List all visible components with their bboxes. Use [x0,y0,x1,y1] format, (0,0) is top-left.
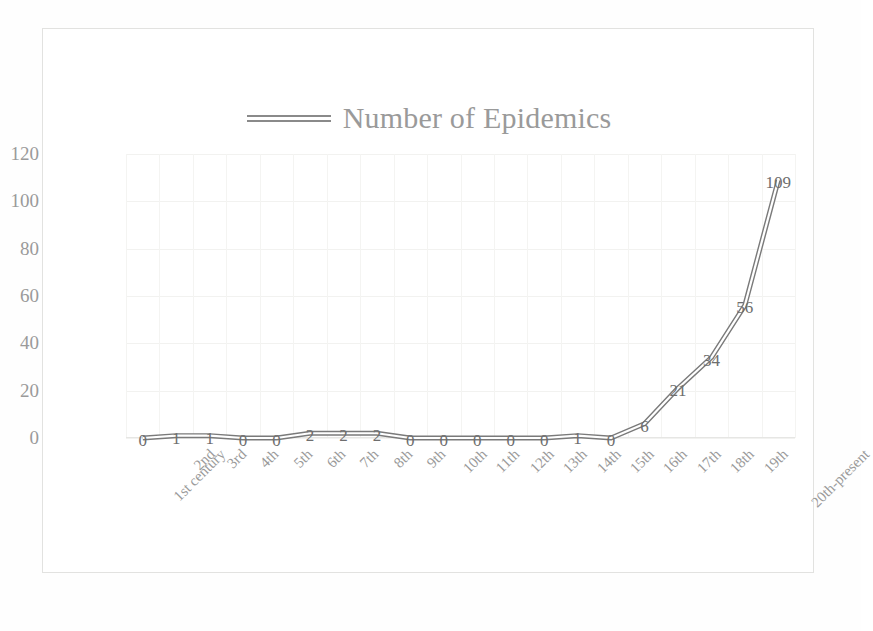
x-axis-tick-text: 20th-present [808,446,873,511]
x-axis-tick-text: 16th [660,446,691,477]
chart-frame: Number of Epidemics 020406080100120 0110… [42,28,814,573]
y-axis-tick-label: 0 [0,427,39,449]
x-axis-tick-label: 18th [727,446,758,477]
plot-area: 020406080100120 011002220000010621345610… [126,154,795,438]
x-axis-tick-label: 13th [560,446,591,477]
x-axis-tick-label: 11th [493,446,523,476]
x-axis-tick-label: 19th [761,446,792,477]
x-axis-tick-label: 17th [694,446,725,477]
data-point-label: 0 [272,431,281,451]
y-axis-tick-label: 120 [0,143,39,165]
x-axis-tick-text: 10th [460,446,491,477]
data-point-label: 109 [766,173,792,193]
x-axis-tick-text: 18th [727,446,758,477]
x-axis-tick-label: 7th [357,446,383,472]
y-axis-tick-label: 20 [0,380,39,402]
x-axis-tick-label: 12th [526,446,557,477]
y-axis-tick-label: 60 [0,285,39,307]
legend-label: Number of Epidemics [343,101,612,135]
data-point-label: 0 [440,431,449,451]
gridline [795,154,796,438]
data-point-label: 6 [640,417,649,437]
data-point-label: 2 [373,426,382,446]
legend-line-swatch-icon [247,114,331,123]
x-axis-tick-text: 19th [761,446,792,477]
data-point-label: 2 [306,426,315,446]
x-axis-tick-label: 16th [660,446,691,477]
data-point-label: 34 [703,351,720,371]
x-axis-tick-label: 15th [627,446,658,477]
data-point-label: 0 [138,431,147,451]
x-axis-tick-text: 5th [290,446,316,472]
series-line-number-of-epidemics [126,154,795,438]
data-point-label: 2 [339,426,348,446]
x-axis-tick-text: 12th [526,446,557,477]
data-point-label: 1 [172,429,181,449]
x-axis-tick-label: 5th [290,446,316,472]
x-axis-tick-text: 13th [560,446,591,477]
y-axis-tick-label: 80 [0,238,39,260]
y-axis-tick-label: 40 [0,332,39,354]
chart-legend: Number of Epidemics [43,101,815,135]
data-point-label: 56 [736,298,753,318]
x-axis-tick-text: 15th [627,446,658,477]
x-axis-tick-text: 11th [493,446,523,476]
x-axis-tick-text: 6th [324,446,350,472]
data-point-label: 0 [406,431,415,451]
x-axis-tick-text: 7th [357,446,383,472]
x-axis-tick-label: 20th-present [808,446,873,511]
x-axis-tick-label: 14th [593,446,624,477]
x-axis-tick-text: 14th [593,446,624,477]
x-axis-tick-text: 17th [694,446,725,477]
data-point-label: 21 [669,381,686,401]
y-axis-tick-label: 100 [0,190,39,212]
x-axis-tick-label: 6th [324,446,350,472]
x-axis-tick-label: 10th [460,446,491,477]
